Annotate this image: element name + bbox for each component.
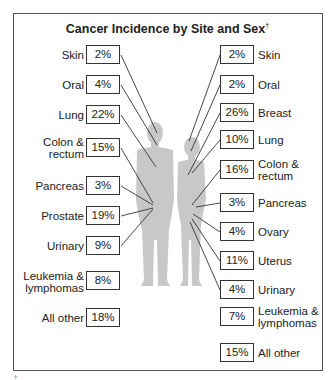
female-label-skin: Skin [258, 49, 280, 61]
female-label-leukemia-line1: Leukemia & [258, 305, 319, 317]
female-value-urinary: 4% [220, 280, 254, 299]
male-label-colon-line1: Colon & [43, 136, 84, 148]
male-value-colon: 15% [86, 138, 120, 157]
footnote-mark: † [14, 374, 17, 380]
male-value-lung: 22% [86, 105, 120, 124]
male-value-skin: 2% [86, 45, 120, 64]
female-value-lung: 10% [220, 130, 254, 149]
male-silhouette-icon [136, 122, 174, 286]
male-label-leukemia: Leukemia &lymphomas [23, 270, 84, 294]
male-label-leukemia-line1: Leukemia & [23, 270, 84, 282]
male-label-leukemia-line2: lymphomas [23, 282, 84, 294]
female-value-skin: 2% [220, 45, 254, 64]
male-value-prostate: 19% [86, 206, 120, 225]
female-label-pancreas: Pancreas [258, 197, 307, 209]
female-label-urinary: Urinary [258, 284, 295, 296]
male-value-all-other: 18% [86, 308, 120, 327]
male-value-pancreas: 3% [86, 176, 120, 195]
male-value-leukemia: 8% [86, 271, 120, 290]
male-value-urinary: 9% [86, 236, 120, 255]
male-label-urinary: Urinary [47, 240, 84, 252]
female-value-ovary: 4% [220, 222, 254, 241]
male-label-prostate: Prostate [41, 210, 84, 222]
male-value-oral: 4% [86, 75, 120, 94]
female-label-colon-line1: Colon & [258, 158, 299, 170]
female-label-ovary: Ovary [258, 226, 289, 238]
male-label-oral: Oral [62, 79, 84, 91]
male-label-colon: Colon &rectum [43, 136, 84, 160]
male-label-pancreas: Pancreas [35, 180, 84, 192]
female-label-leukemia-line2: lymphomas [258, 317, 319, 329]
female-value-all-other: 15% [220, 343, 254, 362]
female-label-lung: Lung [258, 134, 284, 146]
male-label-colon-line2: rectum [43, 148, 84, 160]
female-label-oral: Oral [258, 79, 280, 91]
female-value-uterus: 11% [220, 251, 254, 270]
male-label-skin: Skin [62, 49, 84, 61]
female-value-pancreas: 3% [220, 193, 254, 212]
female-value-breast: 26% [220, 103, 254, 122]
female-label-breast: Breast [258, 107, 291, 119]
female-value-colon: 16% [220, 160, 254, 179]
female-label-colon: Colon &rectum [258, 158, 299, 182]
male-label-lung: Lung [58, 109, 84, 121]
female-silhouette-icon [177, 137, 206, 286]
male-label-all-other: All other [42, 312, 84, 324]
female-label-leukemia: Leukemia &lymphomas [258, 305, 319, 329]
female-label-colon-line2: rectum [258, 170, 299, 182]
female-label-all-other: All other [258, 347, 300, 359]
female-value-oral: 2% [220, 75, 254, 94]
female-label-uterus: Uterus [258, 255, 292, 267]
female-value-leukemia: 7% [220, 307, 254, 326]
